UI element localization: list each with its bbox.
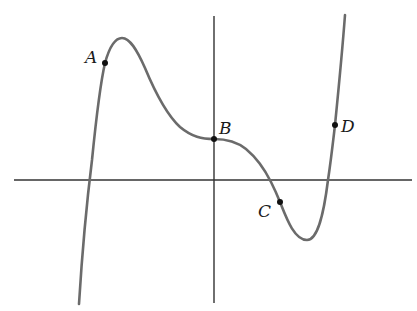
- point-a-label: A: [83, 47, 97, 67]
- point-d-marker: [332, 122, 338, 128]
- function-curve: [79, 15, 345, 304]
- function-graph: A B C D: [0, 0, 417, 311]
- point-c-label: C: [258, 201, 271, 221]
- point-d-label: D: [340, 116, 355, 136]
- point-c-marker: [277, 199, 283, 205]
- point-b-marker: [211, 136, 217, 142]
- point-a-marker: [102, 60, 108, 66]
- point-b-label: B: [218, 118, 232, 138]
